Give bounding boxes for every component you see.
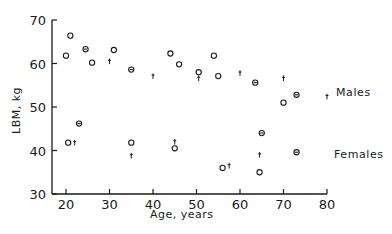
females-point-cross [130,153,133,159]
data-points [63,33,328,175]
males-point-cross [282,75,285,81]
males-point-circle [90,60,95,65]
females-point-circle [220,165,225,170]
males-point-circle-dot [83,47,88,52]
females-point-circle-dot [259,131,264,136]
males-point-circle [281,100,286,105]
females-point-circle [66,140,71,145]
females-point-cross [173,139,176,145]
males-point-circle-dot [253,80,258,85]
males-point-circle [168,51,173,56]
y-tick-label: 60 [29,57,46,72]
males-point-circle [177,62,182,67]
males-point-circle [216,74,221,79]
lbm-age-scatter-chart: 304050607020304050607080 Age, years LBM,… [0,0,392,234]
males-point-circle [68,33,73,38]
males-point-cross [239,70,242,76]
males-point-cross [326,94,329,100]
males-point-cross [108,59,111,65]
males-point-cross [152,73,155,79]
males-point-circle-dot [294,92,299,97]
females-point-circle [257,170,262,175]
males-point-circle [196,70,201,75]
x-tick-label: 70 [275,197,292,212]
females-point-circle-dot [294,150,299,155]
males-point-circle [211,53,216,58]
axes: 304050607020304050607080 [29,13,335,212]
series-label-males: Males [336,86,371,99]
series-label-females: Females [334,148,384,161]
females-point-circle-dot [76,121,81,126]
x-axis-label: Age, years [150,208,214,221]
x-tick-label: 20 [58,197,75,212]
males-point-circle [63,53,68,58]
females-point-cross [228,163,231,169]
y-axis-label: LBM, kg [10,87,23,134]
x-tick-label: 60 [232,197,249,212]
females-point-cross [73,140,76,146]
females-point-circle [172,146,177,151]
males-point-cross [197,75,200,81]
males-point-circle-dot [129,67,134,72]
y-tick-label: 40 [29,144,46,159]
females-point-circle [129,140,134,145]
y-tick-label: 50 [29,100,46,115]
females-point-cross [258,152,261,158]
y-tick-label: 30 [29,187,46,202]
y-tick-label: 70 [29,13,46,28]
x-tick-label: 80 [319,197,336,212]
males-point-circle [111,47,116,52]
x-tick-label: 30 [101,197,118,212]
